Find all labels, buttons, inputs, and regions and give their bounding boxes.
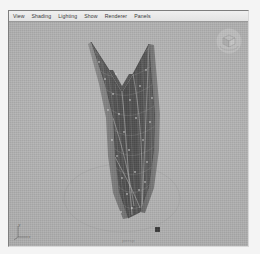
menu-item-renderer[interactable]: Renderer xyxy=(104,13,128,20)
viewport-menubar: View Shading Lighting Show Renderer Pane… xyxy=(9,11,248,22)
menu-item-view[interactable]: View xyxy=(12,13,26,20)
viewport-caption: persp xyxy=(9,238,248,244)
svg-text:y: y xyxy=(19,223,21,227)
leaf-mesh[interactable] xyxy=(88,42,160,219)
helper-square[interactable] xyxy=(155,227,160,232)
viewport-scene xyxy=(9,22,248,246)
app-root: View Shading Lighting Show Renderer Pane… xyxy=(0,0,260,254)
view-cube-icon[interactable] xyxy=(214,26,244,56)
menu-item-show[interactable]: Show xyxy=(83,13,98,20)
menu-item-lighting[interactable]: Lighting xyxy=(57,13,78,20)
viewport-panel: View Shading Lighting Show Renderer Pane… xyxy=(8,10,249,247)
menu-item-panels[interactable]: Panels xyxy=(133,13,151,20)
viewport-canvas[interactable]: y x persp xyxy=(9,22,248,246)
menu-item-shading[interactable]: Shading xyxy=(31,13,53,20)
